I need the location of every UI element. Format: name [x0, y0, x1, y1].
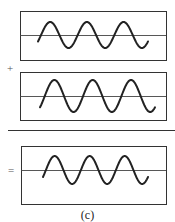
- wave-2-sine-curve: [40, 80, 155, 112]
- wave-sum-sine-curve: [43, 156, 148, 184]
- equals-sign: =: [8, 165, 14, 176]
- wave-superposition-diagram: [0, 0, 175, 222]
- wave-1-panel: [20, 12, 167, 61]
- wave-sum-panel: [21, 147, 167, 205]
- wave-1-frame: [21, 12, 167, 61]
- wave-2-panel: [20, 73, 167, 121]
- wave-1-sine-curve: [38, 22, 148, 48]
- figure-caption: (c): [0, 208, 175, 222]
- plus-sign: +: [7, 63, 13, 74]
